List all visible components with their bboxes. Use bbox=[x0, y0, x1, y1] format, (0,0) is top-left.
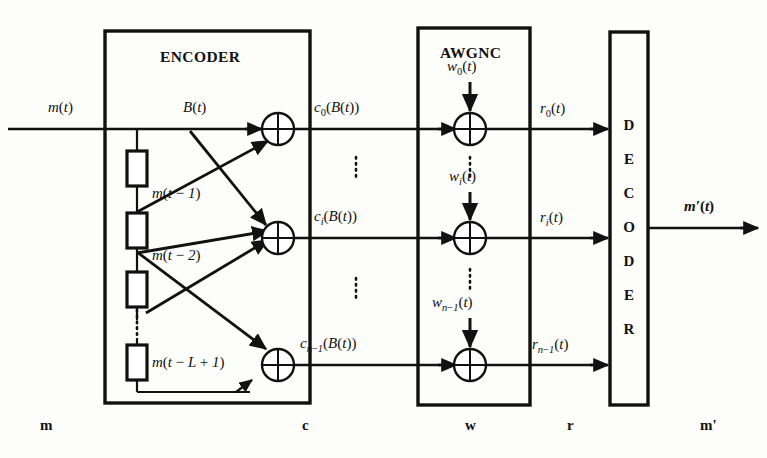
bottom-label-m: m bbox=[40, 418, 53, 433]
register-block-2 bbox=[127, 213, 147, 248]
decoder-letter-6: R bbox=[610, 322, 648, 337]
signal-label-encoder-out-i: ci(B(t)) bbox=[314, 209, 357, 224]
figure-canvas: ENCODER AWGNC D E C O D E R m(t) B(t) c0… bbox=[0, 0, 767, 458]
xor-gate-channel-n1 bbox=[454, 349, 486, 381]
register-label-1: m(t − 2) bbox=[152, 248, 200, 263]
encoder-title: ENCODER bbox=[160, 49, 240, 65]
diagram-svg bbox=[0, 0, 767, 458]
bottom-label-m-prime: m' bbox=[700, 418, 717, 433]
decoder-letter-4: D bbox=[610, 254, 648, 269]
signal-label-encoder-out-n1: cn−1(B(t)) bbox=[300, 336, 356, 351]
bottom-label-w: w bbox=[465, 418, 476, 433]
decoder-letter-3: O bbox=[610, 220, 648, 235]
signal-label-input: m(t) bbox=[48, 100, 73, 115]
register-label-3: m(t − L + 1) bbox=[152, 355, 225, 370]
signal-label-received-n1: rn−1(t) bbox=[532, 337, 568, 352]
xor-gate-encoder-n1 bbox=[262, 349, 294, 381]
register-block-1 bbox=[127, 151, 147, 186]
signal-label-output: m′(t) bbox=[684, 199, 714, 214]
signal-label-received-0: r0(t) bbox=[540, 101, 565, 116]
xor-gate-channel-i bbox=[454, 222, 486, 254]
register-label-0: m(t − 1) bbox=[152, 186, 200, 201]
signal-label-received-i: ri(t) bbox=[540, 210, 563, 225]
decoder-letter-1: E bbox=[610, 152, 648, 167]
xor-gate-encoder-0 bbox=[262, 113, 294, 145]
bottom-label-c: c bbox=[302, 418, 309, 433]
xor-gate-channel-0 bbox=[454, 113, 486, 145]
bottom-label-r: r bbox=[567, 418, 574, 433]
signal-input-text: m bbox=[48, 99, 59, 115]
register-block-4 bbox=[127, 345, 147, 380]
signal-label-branch: B(t) bbox=[183, 100, 206, 115]
decoder-letter-5: E bbox=[610, 288, 648, 303]
register-block-3 bbox=[127, 272, 147, 307]
decoder-letter-0: D bbox=[610, 118, 648, 133]
signal-label-noise-i: wi(t) bbox=[449, 169, 476, 184]
signal-label-noise-0: w0(t) bbox=[447, 59, 476, 74]
decoder-letter-2: C bbox=[610, 186, 648, 201]
signal-label-encoder-out-0: c0(B(t)) bbox=[314, 100, 359, 115]
tap-connections bbox=[137, 131, 268, 349]
xor-gate-encoder-i bbox=[262, 222, 294, 254]
signal-label-noise-n1: wn−1(t) bbox=[432, 295, 473, 310]
